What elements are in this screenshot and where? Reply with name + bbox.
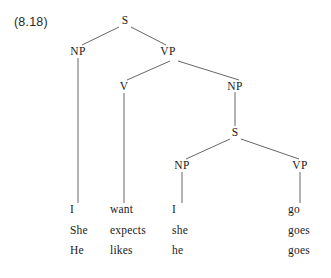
node-np-embedded: NP: [174, 159, 189, 171]
edge-s-to-np-embedded: [186, 139, 230, 159]
terminal-column-embedded-subject-row-2: she: [172, 224, 188, 236]
node-vp-matrix: VP: [160, 45, 175, 57]
terminal-column-embedded-verb-row-2: goes: [288, 224, 310, 236]
terminal-column-embedded-verb-row-3: goes: [288, 244, 310, 256]
node-np-subject: NP: [70, 45, 85, 57]
node-v-matrix: V: [120, 80, 129, 92]
terminal-column-embedded-verb-row-1: go: [288, 203, 300, 215]
terminal-column-verb-row-1: want: [110, 203, 133, 215]
terminal-column-verb-row-3: likes: [110, 244, 133, 256]
terminal-column-embedded-subject-row-1: I: [172, 203, 176, 215]
tree-branch-lines: [0, 0, 331, 278]
terminal-column-embedded-subject-row-3: he: [172, 244, 183, 256]
node-np-object: NP: [227, 80, 242, 92]
node-s-embedded: S: [232, 126, 239, 138]
edge-vp-to-v: [127, 61, 170, 80]
edge-s-to-vp-matrix: [131, 27, 166, 45]
terminal-column-subject-row-1: I: [70, 203, 74, 215]
terminal-column-verb-row-2: expects: [110, 224, 146, 236]
edge-s-to-np-subject: [82, 27, 119, 45]
node-vp-embedded: VP: [292, 159, 307, 171]
terminal-column-subject-row-3: He: [70, 244, 84, 256]
terminal-column-subject-row-2: She: [70, 224, 88, 236]
edge-vp-to-np-object: [178, 61, 239, 80]
node-s-root: S: [122, 14, 129, 26]
edge-s-to-vp-embedded: [241, 139, 299, 159]
figure-canvas: (8.18) SNPVPVNPSNPVP ISheHewantexpectsli…: [0, 0, 331, 278]
